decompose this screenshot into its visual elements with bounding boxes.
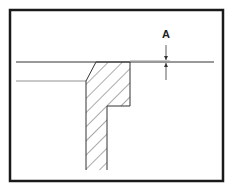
cross-section-diagram: A [0, 0, 232, 192]
dimension-label: A [162, 28, 170, 40]
gap-band [130, 61, 170, 64]
